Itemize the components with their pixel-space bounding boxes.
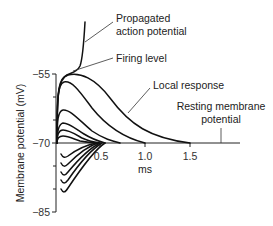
ap-leader-line [85, 22, 113, 42]
local-leader-line [128, 88, 150, 113]
membrane-potential-chart: −55 −70 −85 Membrane potential (mV) 0.5 … [0, 0, 273, 226]
x-axis-label: ms [138, 163, 152, 175]
y-tick-label: −55 [32, 68, 50, 80]
y-axis-label: Membrane potential (mV) [14, 84, 26, 202]
local-response-label: Local response [153, 79, 224, 91]
x-tick-label: 1.0 [138, 150, 153, 162]
x-tick-label: 1.5 [183, 150, 198, 162]
local-response-curve [57, 123, 105, 143]
firing-level-label: Firing level [116, 52, 167, 64]
ap-label-line2: action potential [116, 25, 187, 37]
curves [57, 22, 190, 192]
y-tick-label: −85 [32, 206, 50, 218]
y-axis: −55 −70 −85 Membrane potential (mV) [14, 68, 56, 218]
ap-label-line1: Propagated [116, 12, 170, 24]
hyperpolarization-curve [61, 143, 102, 183]
local-response-curve [57, 136, 98, 143]
rest-label-line2: potential [201, 113, 241, 125]
rest-label-line1: Resting membrane [177, 100, 266, 112]
annotations: Propagated action potential Firing level… [73, 12, 266, 143]
firing-leader-line [73, 58, 113, 71]
y-tick-label: −70 [32, 137, 50, 149]
